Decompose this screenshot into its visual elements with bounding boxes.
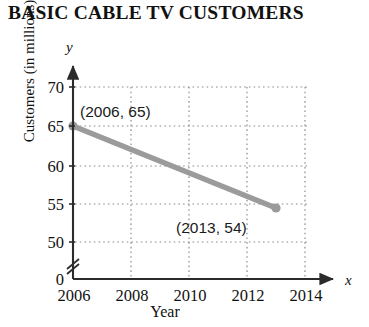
plot-area: 70 65 60 55 50 0 2006 2008 2010 2012 201…: [0, 0, 369, 327]
x-tick-label-2008: 2008: [116, 286, 149, 305]
y-axis-variable-label: y: [64, 39, 73, 55]
y-tick-label-55: 55: [48, 195, 65, 214]
y-tick-label-50: 50: [48, 233, 65, 252]
y-tick-label-70: 70: [48, 78, 65, 97]
y-tick-label-60: 60: [48, 157, 65, 176]
annotation-2013-54: (2013, 54): [176, 219, 247, 236]
x-tick-label-2014: 2014: [290, 286, 323, 305]
chart-container: BASIC CABLE TV CUSTOMERS Customers (in m…: [0, 0, 369, 327]
x-axis-variable-label: x: [344, 272, 352, 288]
y-tick-label-65: 65: [48, 117, 65, 136]
trend-line: [73, 126, 276, 208]
x-tick-label-2006: 2006: [58, 286, 91, 305]
data-series-line: [68, 121, 280, 212]
x-tick-label-2010: 2010: [174, 286, 207, 305]
data-point-2013: [271, 203, 280, 212]
annotation-2006-65: (2006, 65): [80, 103, 151, 120]
x-tick-label-2012: 2012: [232, 286, 265, 305]
